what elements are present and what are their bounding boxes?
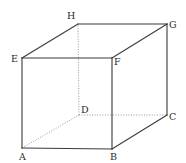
vertex-label-a: A: [18, 151, 26, 162]
hidden-edges: [22, 24, 167, 148]
vertex-label-b: B: [110, 151, 117, 162]
solid-edges: [22, 24, 167, 149]
vertex-label-h: H: [67, 10, 75, 21]
vertex-label-f: F: [114, 56, 121, 67]
edge-fg-solid: [112, 24, 167, 58]
vertex-label-c: C: [169, 111, 176, 122]
vertex-label-d: D: [81, 104, 89, 115]
vertex-label-g: G: [169, 19, 177, 30]
edge-bc-solid: [112, 115, 167, 149]
edge-ad-hidden: [22, 115, 79, 148]
edge-ab-solid: [22, 148, 112, 149]
cube-diagram: ABCDEFGH: [0, 0, 186, 163]
edge-dh-hidden: [78, 24, 79, 115]
vertex-label-e: E: [11, 53, 18, 64]
edge-he-solid: [22, 24, 78, 58]
